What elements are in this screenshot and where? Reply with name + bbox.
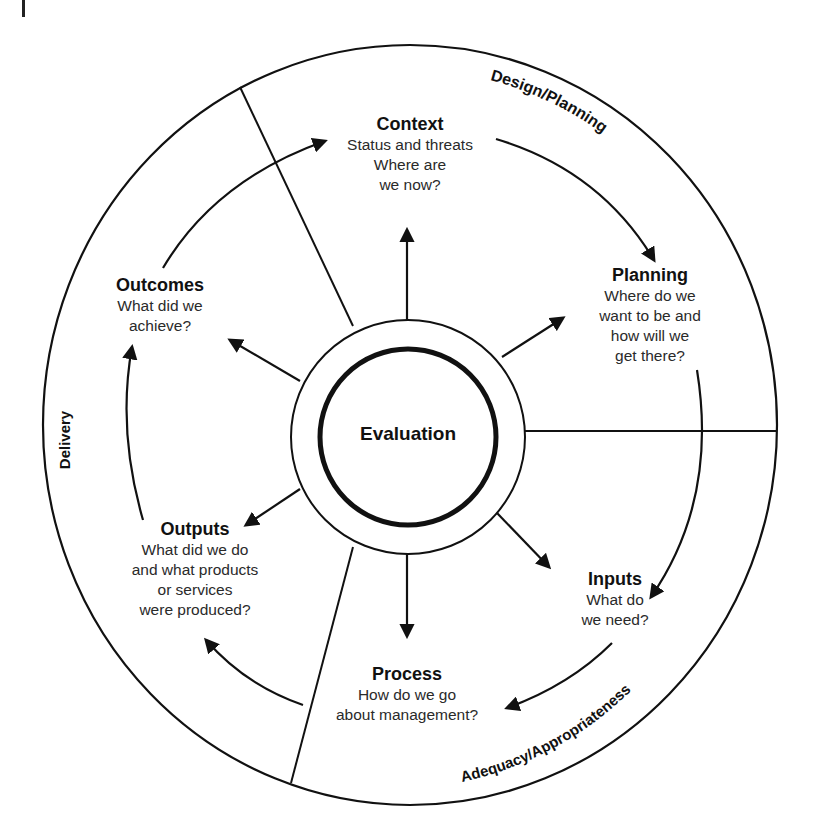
arrow-to-outcomes bbox=[230, 340, 300, 381]
node-text: Where are bbox=[325, 155, 495, 175]
node-text: and what products bbox=[110, 560, 280, 580]
cycle-arrow-process-to-outputs bbox=[206, 640, 303, 705]
node-text: want to be and bbox=[575, 306, 725, 326]
node-text: get there? bbox=[575, 346, 725, 366]
node-text: we now? bbox=[325, 175, 495, 195]
cycle-arrow-outputs-to-outcomes bbox=[127, 347, 143, 520]
node-outcomes: Outcomes What did we achieve? bbox=[100, 274, 220, 336]
node-inputs: Inputs What do we need? bbox=[560, 568, 670, 630]
cycle-arrow-context-to-planning bbox=[496, 139, 654, 260]
node-outputs: Outputs What did we do and what products… bbox=[110, 518, 280, 620]
cycle-arrow-planning-to-inputs bbox=[651, 370, 702, 597]
node-title: Inputs bbox=[560, 568, 670, 590]
cycle-arrow-outcomes-to-context bbox=[163, 141, 325, 268]
node-text: What did we do bbox=[110, 540, 280, 560]
node-title: Context bbox=[325, 113, 495, 135]
cycle-arrow-inputs-to-process bbox=[507, 643, 612, 708]
node-text: or services bbox=[110, 580, 280, 600]
node-context: Context Status and threats Where are we … bbox=[325, 113, 495, 195]
arrow-to-inputs bbox=[497, 513, 549, 567]
node-text: we need? bbox=[560, 610, 670, 630]
node-title: Outputs bbox=[110, 518, 280, 540]
node-text: about management? bbox=[322, 705, 492, 725]
node-title: Planning bbox=[575, 264, 725, 286]
stage-label-design-planning: Design/Planning bbox=[489, 66, 611, 135]
node-text: achieve? bbox=[100, 316, 220, 336]
arrow-to-planning bbox=[502, 318, 563, 357]
node-text: how will we bbox=[575, 326, 725, 346]
node-title: Outcomes bbox=[100, 274, 220, 296]
node-text: What did we bbox=[100, 296, 220, 316]
evaluation-label: Evaluation bbox=[318, 423, 498, 445]
node-text: were produced? bbox=[110, 600, 280, 620]
node-text: Status and threats bbox=[325, 135, 495, 155]
node-text: Where do we bbox=[575, 286, 725, 306]
node-title: Process bbox=[322, 663, 492, 685]
node-text: How do we go bbox=[322, 685, 492, 705]
node-planning: Planning Where do we want to be and how … bbox=[575, 264, 725, 366]
node-process: Process How do we go about management? bbox=[322, 663, 492, 725]
node-text: What do bbox=[560, 590, 670, 610]
stage-label-delivery: Delivery bbox=[56, 410, 73, 469]
